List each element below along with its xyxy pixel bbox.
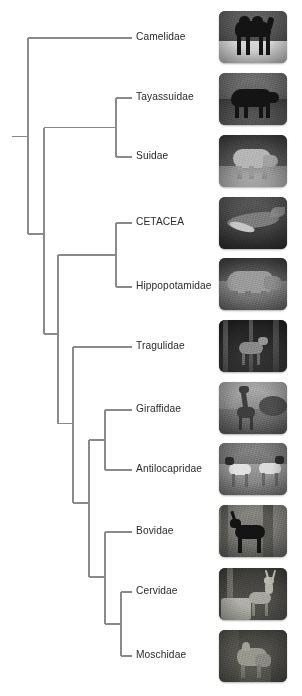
tip-label-cervidae: Cervidae bbox=[136, 586, 178, 596]
photo-vignette bbox=[219, 630, 287, 682]
thumbnail-camelidae bbox=[219, 11, 287, 63]
tip-label-moschidae: Moschidae bbox=[136, 650, 186, 660]
photo-musk-deer bbox=[219, 630, 287, 682]
photo-whale bbox=[219, 197, 287, 249]
thumbnail-tragulidae bbox=[219, 320, 287, 372]
photo-giraffe bbox=[219, 382, 287, 434]
photo-vignette bbox=[219, 320, 287, 372]
photo-pig bbox=[219, 135, 287, 187]
thumbnail-tayassuidae bbox=[219, 73, 287, 125]
tip-label-tayassuidae: Tayassuidae bbox=[136, 92, 194, 102]
photo-hippopotamus bbox=[219, 258, 287, 310]
photo-chevrotain bbox=[219, 320, 287, 372]
tip-label-tragulidae: Tragulidae bbox=[136, 341, 185, 351]
tip-label-camelidae: Camelidae bbox=[136, 32, 186, 42]
tip-label-giraffidae: Giraffidae bbox=[136, 404, 181, 414]
photo-vignette bbox=[219, 382, 287, 434]
photo-vignette bbox=[219, 258, 287, 310]
photo-vignette bbox=[219, 443, 287, 495]
photo-vignette bbox=[219, 505, 287, 557]
photo-vignette bbox=[219, 568, 287, 620]
photo-peccary bbox=[219, 73, 287, 125]
photo-vignette bbox=[219, 73, 287, 125]
photo-deer bbox=[219, 568, 287, 620]
tip-label-antilocapridae: Antilocapridae bbox=[136, 464, 202, 474]
photo-camel bbox=[219, 11, 287, 63]
thumbnail-hippopotamidae bbox=[219, 258, 287, 310]
photo-pronghorn bbox=[219, 443, 287, 495]
thumbnail-cetacea bbox=[219, 197, 287, 249]
phylogeny-figure: CamelidaeTayassuidaeSuidaeCETACEAHippopo… bbox=[0, 0, 302, 696]
photo-vignette bbox=[219, 135, 287, 187]
thumbnail-antilocapridae bbox=[219, 443, 287, 495]
thumbnail-suidae bbox=[219, 135, 287, 187]
thumbnail-moschidae bbox=[219, 630, 287, 682]
tip-label-bovidae: Bovidae bbox=[136, 526, 174, 536]
photo-vignette bbox=[219, 11, 287, 63]
thumbnail-bovidae bbox=[219, 505, 287, 557]
photo-antelope bbox=[219, 505, 287, 557]
tip-label-suidae: Suidae bbox=[136, 151, 168, 161]
photo-vignette bbox=[219, 197, 287, 249]
tip-label-hippopotamidae: Hippopotamidae bbox=[136, 281, 212, 291]
thumbnail-giraffidae bbox=[219, 382, 287, 434]
tip-label-cetacea: CETACEA bbox=[136, 217, 184, 227]
thumbnail-cervidae bbox=[219, 568, 287, 620]
